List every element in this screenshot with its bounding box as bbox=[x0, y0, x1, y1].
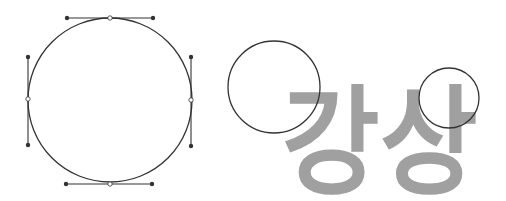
bezier-circle-path bbox=[28, 18, 192, 182]
anchor-point-icon bbox=[108, 182, 112, 186]
handle-point-icon bbox=[189, 55, 193, 59]
handle-point-icon bbox=[189, 144, 193, 148]
handle-point-icon bbox=[26, 55, 30, 59]
handle-point-icon bbox=[150, 182, 154, 186]
diagram-svg: 강상 bbox=[0, 0, 506, 201]
anchor-point-icon bbox=[26, 97, 30, 101]
anchor-point-icon bbox=[189, 98, 193, 102]
handle-point-icon bbox=[65, 16, 69, 20]
diagram-canvas: 강상 bbox=[0, 0, 506, 201]
korean-text-label: 강상 bbox=[282, 74, 478, 201]
handle-point-icon bbox=[151, 16, 155, 20]
bezier-circle-with-handles bbox=[26, 16, 193, 186]
anchor-point-icon bbox=[108, 16, 112, 20]
handle-point-icon bbox=[64, 182, 68, 186]
handle-point-icon bbox=[26, 143, 30, 147]
